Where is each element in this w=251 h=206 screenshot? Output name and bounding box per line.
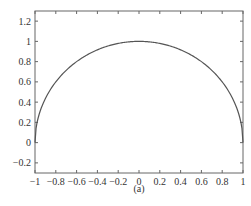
x-tick-label: 0.2 [154, 176, 167, 187]
x-tick-label: −0.6 [68, 176, 86, 187]
semicircle-curve [35, 41, 243, 142]
x-axis-ticks: −1−0.8−0.6−0.4−0.200.20.40.60.81 [30, 11, 246, 187]
y-tick-label: 0.8 [19, 56, 32, 67]
x-tick-label: −0.4 [88, 176, 106, 187]
x-tick-label: 1 [241, 176, 246, 187]
x-tick-label: 0.6 [195, 176, 208, 187]
series-layer [35, 41, 243, 142]
y-tick-label: 0.4 [19, 97, 32, 108]
y-tick-label: 0 [26, 137, 31, 148]
x-tick-label: −0.2 [109, 176, 127, 187]
semicircle-chart: −1−0.8−0.6−0.4−0.200.20.40.60.81 1.210.8… [0, 0, 251, 206]
y-tick-label: 1 [26, 36, 31, 47]
y-tick-label: −0.2 [13, 157, 31, 168]
y-tick-label: 0.6 [19, 76, 32, 87]
y-tick-label: 1.2 [19, 16, 32, 27]
y-tick-label: 0.2 [19, 117, 32, 128]
x-tick-label: −1 [30, 176, 41, 187]
x-tick-label: −0.8 [47, 176, 65, 187]
figure-caption: (a) [133, 183, 144, 195]
plot-frame [35, 11, 243, 173]
y-axis-ticks: 1.210.80.60.40.20−0.2 [13, 16, 243, 169]
x-tick-label: 0.4 [174, 176, 187, 187]
x-tick-label: 0.8 [216, 176, 229, 187]
plot-box [35, 11, 243, 173]
